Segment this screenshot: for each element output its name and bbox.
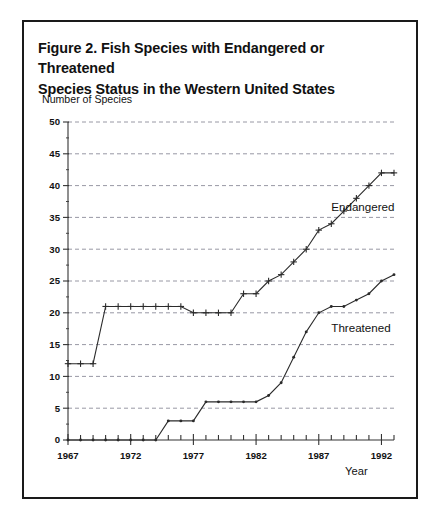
data-point-marker — [316, 227, 322, 233]
data-point-marker — [102, 303, 108, 309]
series-threatened — [67, 273, 396, 441]
x-axis-ticks-group: 196719721977198219871992 — [57, 434, 394, 461]
data-point-marker — [342, 305, 345, 308]
data-point-marker — [391, 170, 397, 176]
y-axis-tick-label: 15 — [49, 339, 60, 350]
data-point-marker — [77, 360, 83, 366]
data-point-marker — [178, 303, 184, 309]
y-axis-ticks-group: 05101520253035404550 — [49, 116, 69, 445]
data-point-marker — [330, 305, 333, 308]
y-axis-tick-label: 25 — [49, 275, 60, 286]
data-point-marker — [280, 381, 283, 384]
data-point-marker — [115, 303, 121, 309]
gridlines-group — [68, 122, 394, 408]
line-chart-plot: 0510152025303540455019671972197719821987… — [24, 22, 416, 497]
data-point-marker — [129, 439, 132, 442]
y-axis-tick-label: 40 — [49, 180, 60, 191]
x-axis-tick-label: 1972 — [120, 450, 141, 461]
data-point-marker — [142, 439, 145, 442]
x-axis-tick-label: 1982 — [245, 450, 266, 461]
y-axis-tick-label: 10 — [49, 371, 60, 382]
x-axis-title: Year — [345, 465, 368, 477]
data-point-marker — [204, 400, 207, 403]
x-axis-tick-label: 1967 — [57, 450, 78, 461]
y-axis-tick-label: 0 — [55, 434, 60, 445]
x-axis-tick-label: 1977 — [183, 450, 204, 461]
data-point-marker — [240, 291, 246, 297]
data-point-marker — [203, 310, 209, 316]
series-line-threatened — [68, 275, 394, 440]
data-point-marker — [317, 311, 320, 314]
data-point-marker — [92, 439, 95, 442]
series-annotations-group: EndangeredThreatened — [331, 200, 394, 334]
data-point-marker — [117, 439, 120, 442]
data-point-marker — [255, 400, 258, 403]
data-point-marker — [179, 419, 182, 422]
data-point-marker — [228, 310, 234, 316]
data-point-marker — [380, 280, 383, 283]
y-axis-tick-label: 20 — [49, 307, 60, 318]
data-point-marker — [127, 303, 133, 309]
data-point-marker — [104, 439, 107, 442]
data-point-marker — [65, 360, 71, 366]
data-point-marker — [190, 310, 196, 316]
y-axis-tick-label: 45 — [49, 148, 60, 159]
data-point-marker — [355, 299, 358, 302]
series-annotation-endangered: Endangered — [331, 200, 394, 213]
data-point-marker — [192, 419, 195, 422]
y-axis-tick-label: 50 — [49, 116, 60, 127]
x-axis-tick-label: 1987 — [308, 450, 329, 461]
data-point-marker — [215, 310, 221, 316]
data-point-marker — [167, 419, 170, 422]
data-point-marker — [367, 292, 370, 295]
data-point-marker — [393, 273, 396, 276]
x-axis-tick-label: 1992 — [371, 450, 392, 461]
data-point-marker — [242, 400, 245, 403]
data-point-marker — [79, 439, 82, 442]
data-point-marker — [230, 400, 233, 403]
data-point-marker — [165, 303, 171, 309]
data-point-marker — [217, 400, 220, 403]
data-point-marker — [153, 303, 159, 309]
figure-frame: Figure 2. Fish Species with Endangered o… — [22, 20, 418, 499]
y-axis-tick-label: 35 — [49, 212, 60, 223]
series-annotation-threatened: Threatened — [331, 321, 390, 334]
data-point-marker — [154, 439, 157, 442]
data-point-marker — [140, 303, 146, 309]
y-axis-tick-label: 30 — [49, 244, 60, 255]
data-point-marker — [267, 394, 270, 397]
data-point-marker — [292, 356, 295, 359]
data-point-marker — [90, 360, 96, 366]
data-point-marker — [305, 330, 308, 333]
data-point-marker — [67, 439, 70, 442]
y-axis-tick-label: 5 — [55, 403, 61, 414]
